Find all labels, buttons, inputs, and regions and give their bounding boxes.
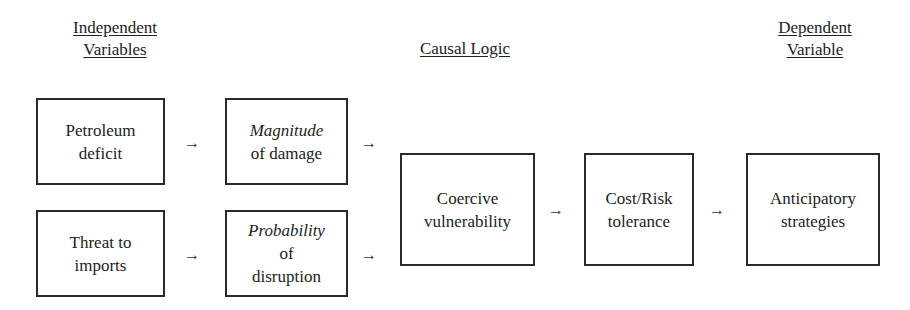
header-dependent-variable: Dependent Variable [760, 17, 870, 61]
box-magnitude-of-damage: Magnitude of damage [225, 98, 348, 185]
arrow-icon: → [709, 202, 725, 218]
box-probability-of-disruption: Probability of disruption [225, 210, 348, 297]
header-line: Dependent [760, 17, 870, 39]
arrow-icon: → [361, 247, 377, 263]
box-text: Petroleum [66, 119, 136, 142]
box-petroleum-deficit: Petroleum deficit [36, 98, 165, 185]
box-text: disruption [252, 265, 321, 288]
arrow-icon: → [184, 247, 200, 263]
header-line: Variables [55, 39, 175, 61]
arrow-icon: → [361, 135, 377, 151]
box-threat-to-imports: Threat to imports [36, 210, 165, 297]
box-text: Anticipatory [770, 187, 856, 210]
box-cost-risk-tolerance: Cost/Risk tolerance [584, 153, 694, 266]
box-text: Threat to [70, 231, 132, 254]
box-text: of [279, 242, 293, 265]
arrow-icon: → [184, 135, 200, 151]
box-text: deficit [79, 142, 122, 165]
box-text: vulnerability [424, 210, 511, 233]
box-text: Coercive [437, 187, 498, 210]
header-causal-logic: Causal Logic [395, 38, 535, 60]
box-text: imports [75, 254, 127, 277]
arrow-icon: → [548, 202, 564, 218]
header-independent-variables: Independent Variables [55, 17, 175, 61]
box-text-italic: Probability [248, 219, 325, 242]
box-anticipatory-strategies: Anticipatory strategies [746, 153, 880, 266]
box-text: tolerance [608, 210, 670, 233]
box-coercive-vulnerability: Coercive vulnerability [400, 153, 535, 266]
box-text-italic: Magnitude [250, 119, 324, 142]
header-line: Variable [760, 39, 870, 61]
box-text: Cost/Risk [605, 187, 672, 210]
header-line: Independent [55, 17, 175, 39]
box-text: strategies [781, 210, 845, 233]
box-text: of damage [251, 142, 322, 165]
